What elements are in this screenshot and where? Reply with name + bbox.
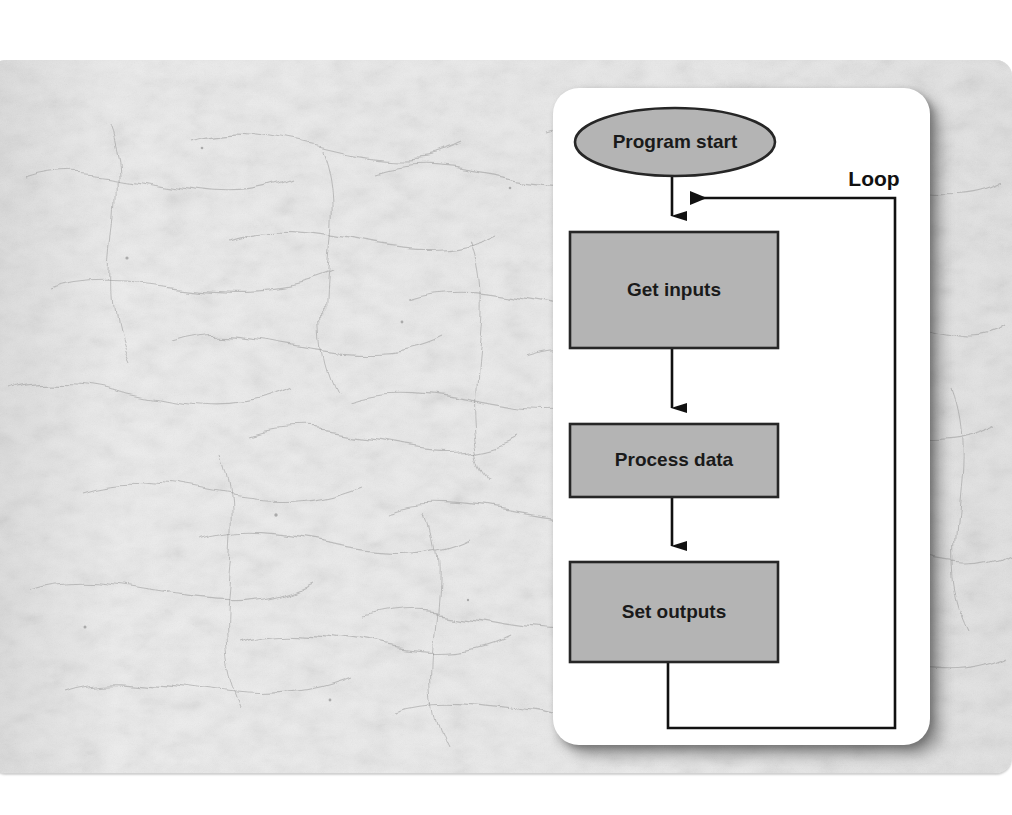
flowchart-card: [553, 88, 930, 745]
